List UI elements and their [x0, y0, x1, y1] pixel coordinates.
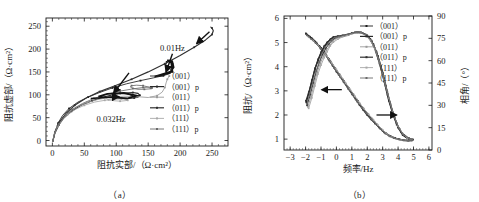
data-point	[394, 116, 396, 118]
y-tick-label-right: 0	[437, 145, 441, 155]
data-point	[348, 33, 350, 35]
x-tick-label: 250	[206, 148, 219, 158]
data-point	[74, 104, 76, 106]
legend-label: （111）	[375, 64, 402, 73]
data-point	[366, 113, 368, 115]
y-axis-title: 阻抗虚部/（Ω·cm²）	[3, 42, 14, 122]
data-point	[389, 102, 391, 104]
data-point	[347, 88, 349, 90]
data-point	[131, 78, 133, 80]
data-point	[83, 104, 85, 106]
panel-b: −3−2−101234561234560153045607590频率/Hz阻抗/…	[240, 0, 479, 202]
data-point	[408, 137, 410, 139]
data-point	[317, 73, 319, 75]
annotation-2: 0.032Hz	[97, 114, 126, 124]
legend-marker	[366, 35, 368, 37]
legend-label: （111）p	[167, 125, 198, 134]
legend-label: （001）p	[375, 32, 407, 41]
data-point	[132, 88, 134, 90]
y-axis-title-right: 相角/（°）	[459, 62, 470, 104]
y-tick-label-right: 15	[437, 123, 446, 133]
data-point	[71, 109, 73, 111]
legend-label: （011）p	[375, 53, 407, 62]
x-tick-label: 150	[142, 148, 155, 158]
data-point	[333, 67, 335, 69]
data-point	[211, 34, 213, 36]
y-tick-label: 200	[28, 44, 41, 54]
data-point	[326, 49, 328, 51]
bode-plot: −3−2−101234561234560153045607590频率/Hz阻抗/…	[240, 0, 479, 202]
x-tick-label: 100	[110, 148, 123, 158]
data-point	[329, 61, 331, 63]
y-tick-label: 100	[28, 90, 41, 100]
x-tick-label: 200	[174, 148, 187, 158]
data-point	[398, 139, 400, 141]
data-point	[308, 107, 310, 109]
data-point	[411, 139, 413, 141]
data-point	[332, 41, 334, 43]
data-point	[403, 139, 405, 141]
figure-impedance-spectra: 0501001502002500501001502002500.01Hz0.03…	[0, 0, 479, 202]
data-point	[320, 64, 322, 66]
x-axis-title: 频率/Hz	[343, 163, 374, 174]
data-point	[309, 93, 311, 95]
data-point	[142, 87, 144, 89]
data-point	[315, 70, 317, 72]
data-point	[104, 99, 106, 101]
data-point	[312, 81, 314, 83]
x-tick-label: −3	[286, 152, 295, 162]
y-tick-label-right: 90	[437, 11, 446, 21]
data-point	[321, 52, 323, 54]
y-tick-label-left: 1	[275, 134, 279, 144]
panel-a-caption: （a）	[0, 188, 240, 201]
data-point	[357, 32, 359, 34]
legend-marker	[156, 86, 158, 88]
x-tick-label: 2	[365, 152, 369, 162]
data-point	[306, 34, 308, 36]
legend-marker	[156, 75, 158, 77]
data-point	[328, 43, 330, 45]
data-point	[403, 134, 405, 136]
legend-label: （001）	[167, 72, 195, 81]
legend-marker	[366, 25, 368, 27]
data-point	[385, 84, 387, 86]
data-point	[131, 85, 133, 87]
data-point	[139, 94, 141, 96]
data-point	[380, 128, 382, 130]
data-point	[193, 46, 195, 48]
annotation-1: 0.01Hz	[160, 43, 185, 53]
data-point	[320, 51, 322, 53]
y-tick-label: 250	[28, 21, 41, 31]
data-point	[338, 36, 340, 38]
x-tick-label: 0	[50, 148, 54, 158]
legend-label: （111）p	[375, 74, 406, 83]
data-point	[164, 87, 166, 89]
legend-label: （111）	[167, 114, 194, 123]
data-point	[142, 85, 144, 87]
data-point	[326, 51, 328, 53]
data-point	[317, 58, 319, 60]
data-point	[323, 57, 325, 59]
legend-marker	[156, 128, 158, 130]
legend-marker	[366, 67, 368, 69]
data-point	[356, 101, 358, 103]
data-point	[329, 45, 331, 47]
panel-b-caption: （b）	[240, 188, 479, 201]
data-point	[393, 137, 395, 139]
y-axis-title-left: 阻抗/（Ω·cm²）	[242, 52, 253, 114]
data-point	[375, 123, 377, 125]
legend-label: （011）p	[167, 104, 199, 113]
data-point	[389, 135, 391, 137]
data-point	[108, 99, 110, 101]
data-point	[370, 118, 372, 120]
y-tick-label-left: 6	[275, 13, 279, 23]
x-tick-label: 0	[334, 152, 338, 162]
data-point	[311, 97, 313, 99]
data-point	[324, 45, 326, 47]
data-point	[119, 90, 121, 92]
legend-marker	[366, 46, 368, 48]
y-tick-label-right: 75	[437, 33, 446, 43]
data-point	[327, 41, 329, 43]
data-point	[311, 79, 313, 81]
x-tick-label: 4	[396, 152, 401, 162]
